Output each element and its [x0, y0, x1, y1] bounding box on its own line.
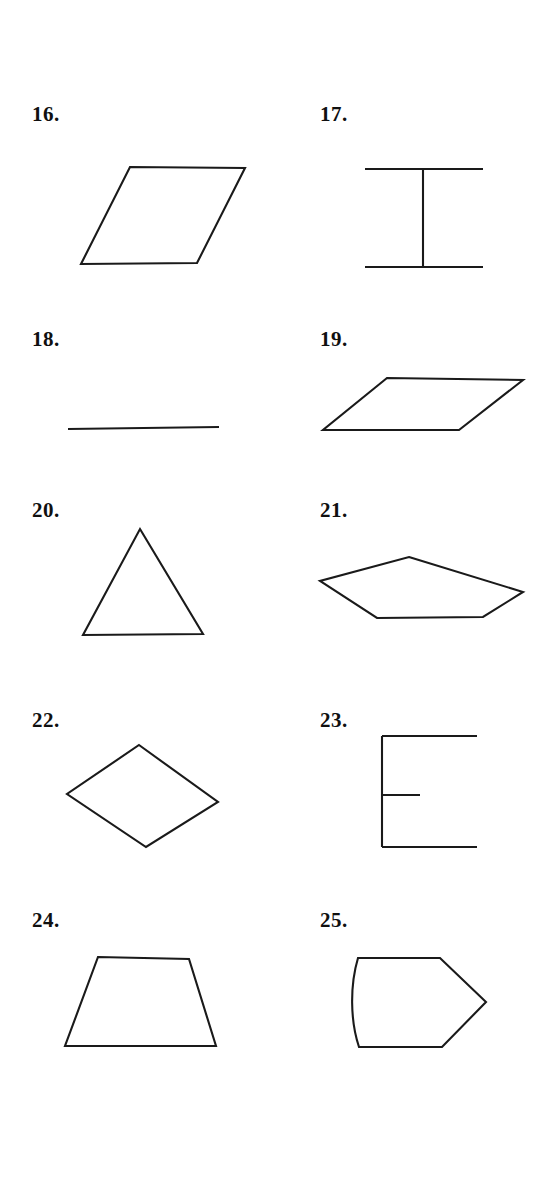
- figure-label-18: 18.: [32, 329, 60, 350]
- figure-label-23: 23.: [320, 710, 348, 731]
- figure-label-22: 22.: [32, 710, 60, 731]
- figure-25-bullet-pentagon: [352, 958, 486, 1047]
- figure-22-rhombus: [67, 745, 218, 847]
- figure-21-pentagon: [320, 557, 523, 618]
- figure-label-20: 20.: [32, 500, 60, 521]
- figure-label-21: 21.: [320, 500, 348, 521]
- figure-label-17: 17.: [320, 104, 348, 125]
- figure-label-16: 16.: [32, 104, 60, 125]
- figure-label-24: 24.: [32, 910, 60, 931]
- figure-20-triangle: [83, 529, 203, 635]
- figure-label-19: 19.: [320, 329, 348, 350]
- figure-label-25: 25.: [320, 910, 348, 931]
- figure-19-flat-parallelogram: [323, 378, 523, 430]
- figures-canvas: [0, 0, 535, 1178]
- figure-18-line-segment: [68, 427, 219, 429]
- worksheet-page: 16. 17. 18. 19. 20. 21. 22. 23. 24. 25.: [0, 0, 535, 1178]
- figure-17-i-beam: [365, 169, 483, 267]
- figure-16-parallelogram: [81, 167, 245, 264]
- figure-24-trapezoid: [65, 957, 216, 1046]
- figure-23-letter-e-outline: [382, 736, 477, 847]
